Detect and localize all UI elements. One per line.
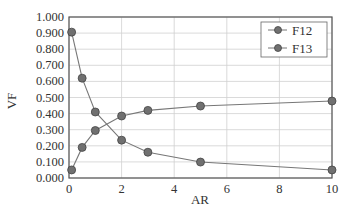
legend-label-f13: F13 <box>292 41 312 56</box>
x-tick-label: 2 <box>118 182 124 196</box>
line-chart: 0.0000.1000.2000.3000.4000.5000.6000.700… <box>0 0 354 214</box>
y-tick-label: 1.000 <box>36 10 64 24</box>
data-point-marker <box>144 106 152 114</box>
x-tick-label: 0 <box>66 182 72 196</box>
data-point-marker <box>78 143 86 151</box>
data-point-marker <box>68 166 76 174</box>
data-point-marker <box>197 102 205 110</box>
y-tick-label: 0.600 <box>36 74 64 88</box>
data-point-marker <box>118 136 126 144</box>
y-tick-label: 0.700 <box>36 58 64 72</box>
data-point-marker <box>144 148 152 156</box>
x-axis-label: AR <box>191 192 209 207</box>
x-tick-label: 6 <box>224 182 230 196</box>
legend-label-f12: F12 <box>292 23 312 38</box>
data-point-marker <box>91 127 99 135</box>
y-tick-label: 0.000 <box>36 171 64 185</box>
y-tick-label: 0.100 <box>36 155 64 169</box>
y-axis-label: VF <box>4 93 19 110</box>
x-tick-label: 10 <box>326 182 339 196</box>
data-point-marker <box>328 97 336 105</box>
data-point-marker <box>78 74 86 82</box>
legend: F12 F13 <box>261 22 327 57</box>
data-point-marker <box>91 108 99 116</box>
data-point-marker <box>118 112 126 120</box>
y-axis-ticks: 0.0000.1000.2000.3000.4000.5000.6000.700… <box>36 10 64 185</box>
data-point-marker <box>197 158 205 166</box>
y-tick-label: 0.800 <box>36 42 64 56</box>
x-tick-label: 8 <box>276 182 282 196</box>
y-tick-label: 0.900 <box>36 26 64 40</box>
data-point-marker <box>328 166 336 174</box>
x-tick-label: 4 <box>171 182 178 196</box>
y-tick-label: 0.300 <box>36 123 64 137</box>
y-tick-label: 0.400 <box>36 107 64 121</box>
y-tick-label: 0.500 <box>36 91 64 105</box>
legend-marker-f12 <box>275 27 282 34</box>
legend-marker-f13 <box>275 45 282 52</box>
y-tick-label: 0.200 <box>36 139 64 153</box>
data-point-marker <box>68 28 76 36</box>
